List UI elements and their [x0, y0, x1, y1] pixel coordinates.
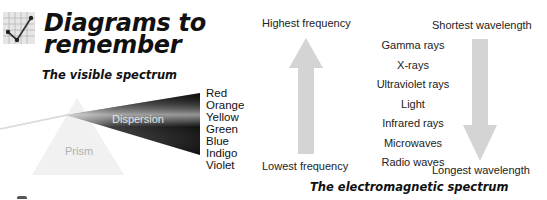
- color-item: Red: [206, 87, 244, 99]
- wave-item: Microwaves: [353, 134, 473, 154]
- title-line-2: remember: [44, 34, 206, 56]
- color-item: Orange: [206, 99, 244, 111]
- prism-dispersion-diagram: [0, 80, 205, 180]
- dispersion-label: Dispersion: [112, 113, 164, 125]
- page-corner-mark: [17, 196, 27, 199]
- frequency-up-arrow-icon: [288, 38, 324, 154]
- wave-item: Gamma rays: [353, 36, 473, 56]
- wave-item: X-rays: [353, 56, 473, 76]
- wave-item: Light: [353, 95, 473, 115]
- highest-frequency-label: Highest frequency: [262, 17, 351, 29]
- color-item: Green: [206, 123, 244, 135]
- visible-colors-list: Red Orange Yellow Green Blue Indigo Viol…: [206, 87, 244, 171]
- wave-item: Infrared rays: [353, 114, 473, 134]
- color-item: Yellow: [206, 111, 244, 123]
- shortest-wavelength-label: Shortest wavelength: [432, 19, 532, 31]
- em-waves-list: Gamma rays X-rays Ultraviolet rays Light…: [353, 36, 473, 173]
- color-item: Indigo: [206, 147, 244, 159]
- page-title: Diagrams to remember: [44, 12, 206, 56]
- prism-label: Prism: [65, 145, 93, 157]
- wave-item: Radio waves: [353, 153, 473, 173]
- color-item: Violet: [206, 159, 244, 171]
- line-chart-check-icon: [3, 12, 35, 44]
- em-spectrum-heading: The electromagnetic spectrum: [310, 180, 509, 194]
- wave-item: Ultraviolet rays: [353, 75, 473, 95]
- lowest-frequency-label: Lowest frequency: [262, 160, 348, 172]
- color-item: Blue: [206, 135, 244, 147]
